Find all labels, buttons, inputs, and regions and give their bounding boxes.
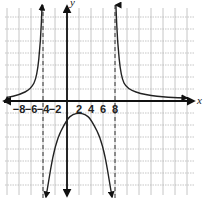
x-tick-label: −2 — [49, 103, 62, 115]
x-tick-label: −6 — [25, 103, 38, 115]
axes — [4, 6, 194, 196]
x-tick-label: 2 — [76, 103, 82, 115]
x-tick-label: −8 — [13, 103, 26, 115]
curve-branch — [116, 5, 187, 98]
x-tick-label: 6 — [100, 103, 106, 115]
x-axis-label: x — [196, 94, 202, 106]
x-tick-label: 8 — [112, 103, 118, 115]
y-axis-label: y — [69, 0, 75, 8]
curve-branch — [7, 5, 42, 97]
x-tick-label: 4 — [88, 103, 95, 115]
function-graph: −8−6−4−22468 x y — [0, 0, 203, 203]
